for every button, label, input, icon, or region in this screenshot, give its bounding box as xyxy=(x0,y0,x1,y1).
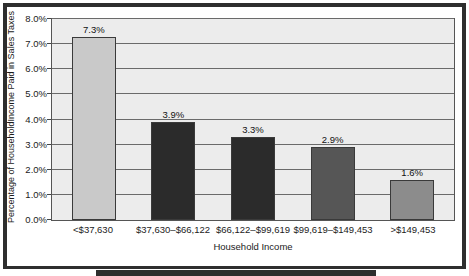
y-tick-label: 3.0% xyxy=(7,138,47,149)
x-tick-label: $99,619–$149,453 xyxy=(293,224,373,235)
y-tick-mark xyxy=(47,169,51,170)
y-tick-mark xyxy=(47,219,51,220)
bar-value-label: 2.9% xyxy=(322,134,344,145)
bar-slot: 3.3% xyxy=(213,19,293,220)
y-tick-mark xyxy=(47,43,51,44)
x-tick-label: >$149,453 xyxy=(373,224,453,235)
bar-value-label: 3.9% xyxy=(163,109,185,120)
x-tick-label: $66,122–$99,619 xyxy=(213,224,293,235)
y-tick-label: 6.0% xyxy=(7,63,47,74)
x-tick-label: <$37,630 xyxy=(53,224,133,235)
y-tick-mark xyxy=(47,68,51,69)
bar-chart-figure: Percentage of HouseholdIncome Paid in Sa… xyxy=(0,0,469,276)
bar[interactable]: 2.9% xyxy=(311,147,355,220)
bar[interactable]: 7.3% xyxy=(72,37,116,220)
x-tick-label: $37,630–$66,122 xyxy=(133,224,213,235)
y-tick-label: 7.0% xyxy=(7,38,47,49)
bottom-dark-band xyxy=(96,270,376,276)
bar-series: 7.3%3.9%3.3%2.9%1.6% xyxy=(52,19,454,220)
bar-value-label: 7.3% xyxy=(83,24,105,35)
y-tick-label: 1.0% xyxy=(7,188,47,199)
y-tick-mark xyxy=(47,144,51,145)
bar-slot: 3.9% xyxy=(134,19,214,220)
y-tick-mark xyxy=(47,119,51,120)
y-tick-label: 0.0% xyxy=(7,214,47,225)
bar-slot: 1.6% xyxy=(372,19,452,220)
y-tick-label: 5.0% xyxy=(7,88,47,99)
bottom-frame-rule xyxy=(3,266,466,269)
y-tick-label: 8.0% xyxy=(7,13,47,24)
plot-area: 7.3%3.9%3.3%2.9%1.6% xyxy=(51,18,455,221)
y-tick-mark xyxy=(47,18,51,19)
bar[interactable]: 3.9% xyxy=(151,122,195,220)
bar-value-label: 3.3% xyxy=(242,124,264,135)
x-axis-title: Household Income xyxy=(51,241,455,252)
bar[interactable]: 3.3% xyxy=(231,137,275,220)
y-tick-label: 2.0% xyxy=(7,163,47,174)
bar-value-label: 1.6% xyxy=(401,167,423,178)
x-axis-ticks: <$37,630$37,630–$66,122$66,122–$99,619$9… xyxy=(51,224,455,235)
y-tick-mark xyxy=(47,194,51,195)
bar[interactable]: 1.6% xyxy=(390,180,434,220)
bar-slot: 7.3% xyxy=(54,19,134,220)
y-tick-mark xyxy=(47,93,51,94)
bar-slot: 2.9% xyxy=(293,19,373,220)
y-tick-label: 4.0% xyxy=(7,113,47,124)
